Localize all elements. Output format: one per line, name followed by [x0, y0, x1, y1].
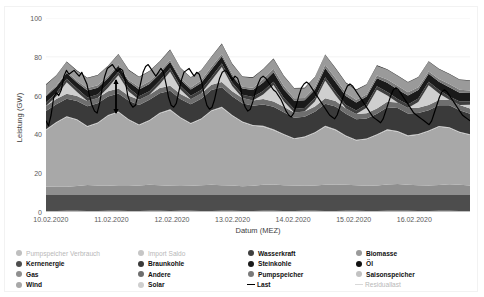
legend-item[interactable]: Steinkohle: [248, 259, 303, 270]
legend-item[interactable]: Wasserkraft: [248, 248, 303, 259]
legend-dot-swatch: [16, 271, 22, 277]
legend-item-label: Andere: [148, 271, 171, 278]
y-axis: Leistung (GW) 020406080100: [0, 18, 42, 212]
legend-dot-swatch: [138, 261, 144, 267]
area-series: [46, 184, 470, 195]
y-tick-label: 40: [8, 131, 42, 138]
legend-item[interactable]: Saisonspeicher: [356, 269, 415, 280]
legend-item[interactable]: Solar: [138, 280, 185, 291]
x-tick-label: 16.02.2020: [384, 215, 444, 224]
legend-dot-swatch: [16, 250, 22, 256]
y-tick-label: 80: [8, 53, 42, 60]
x-tick-label: 15.02.2020: [324, 215, 384, 224]
legend-col-3: WasserkraftSteinkohlePumpspeicherLast: [248, 248, 303, 290]
legend-item-label: Pumpspeicher Verbrauch: [26, 250, 100, 257]
legend-item-label: Biomasse: [366, 250, 397, 257]
legend-item-label: Wasserkraft: [258, 250, 296, 257]
legend-dot-swatch: [16, 261, 22, 267]
legend-item[interactable]: Öl: [356, 259, 415, 270]
legend-dot-swatch: [138, 271, 144, 277]
legend-dot-swatch: [16, 282, 22, 288]
legend-item[interactable]: Pumpspeicher Verbrauch: [16, 248, 100, 259]
legend-item[interactable]: Import Saldo: [138, 248, 185, 259]
x-tick-label: 11.02.2020: [81, 215, 141, 224]
y-axis-label: Leistung (GW): [15, 73, 24, 163]
legend-item-label: Saisonspeicher: [366, 271, 415, 278]
legend-col-1: Pumpspeicher VerbrauchKernenergieGasWind: [16, 248, 100, 290]
legend-item-label: Pumpspeicher: [258, 271, 303, 278]
legend-item-label: Öl: [366, 260, 373, 267]
y-tick-label: 60: [8, 92, 42, 99]
legend-col-4: BiomasseÖlSaisonspeicherResiduallast: [356, 248, 415, 290]
legend-item-label: Gas: [26, 271, 38, 278]
legend-dot-swatch: [138, 282, 144, 288]
legend-item-label: Solar: [148, 281, 165, 288]
legend-dot-swatch: [248, 271, 254, 277]
legend-col-2: Import SaldoBraunkohleAndereSolar: [138, 248, 185, 290]
chart-legend: Pumpspeicher VerbrauchKernenergieGasWind…: [16, 248, 468, 290]
area-series: [46, 195, 470, 211]
x-tick-label: 12.02.2020: [142, 215, 202, 224]
legend-line-swatch: [355, 284, 363, 285]
legend-item[interactable]: Last: [248, 280, 303, 291]
legend-item[interactable]: Gas: [16, 269, 100, 280]
y-tick-label: 100: [8, 15, 42, 22]
legend-item[interactable]: Residuallast: [356, 280, 415, 291]
legend-item[interactable]: Andere: [138, 269, 185, 280]
area-series: [46, 211, 470, 212]
legend-item-label: Steinkohle: [258, 260, 291, 267]
x-tick-label: 14.02.2020: [263, 215, 323, 224]
legend-item-label: Last: [257, 281, 271, 288]
legend-item-label: Kernenergie: [26, 260, 64, 267]
legend-item-label: Import Saldo: [148, 250, 185, 257]
legend-item[interactable]: Wind: [16, 280, 100, 291]
legend-item-label: Braunkohle: [148, 260, 184, 267]
legend-item-label: Residuallast: [365, 281, 401, 288]
x-tick-label: 13.02.2020: [203, 215, 263, 224]
legend-line-swatch: [247, 284, 255, 285]
stacked-area-chart: [46, 18, 470, 212]
legend-item[interactable]: Kernenergie: [16, 259, 100, 270]
legend-dot-swatch: [248, 261, 254, 267]
legend-dot-swatch: [138, 250, 144, 256]
legend-item[interactable]: Pumpspeicher: [248, 269, 303, 280]
legend-item-label: Wind: [26, 281, 42, 288]
chart-page: Leistung (GW) 020406080100 10.02.202011.…: [0, 0, 484, 297]
legend-dot-swatch: [248, 250, 254, 256]
legend-dot-swatch: [356, 261, 362, 267]
legend-item[interactable]: Biomasse: [356, 248, 415, 259]
legend-dot-swatch: [356, 250, 362, 256]
legend-item[interactable]: Braunkohle: [138, 259, 185, 270]
x-axis-label: Datum (MEZ): [46, 226, 470, 235]
x-tick-label: 10.02.2020: [21, 215, 81, 224]
y-tick-label: 20: [8, 170, 42, 177]
legend-dot-swatch: [356, 271, 362, 277]
plot-area: [46, 18, 470, 212]
